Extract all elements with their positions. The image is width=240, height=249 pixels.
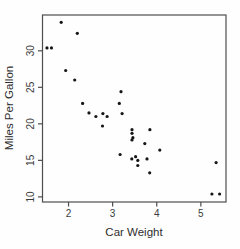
y-tick-label: 15 xyxy=(25,154,36,166)
axes-layer xyxy=(43,15,227,202)
data-point xyxy=(143,142,146,145)
data-point xyxy=(215,161,218,164)
data-point xyxy=(64,69,67,72)
data-point xyxy=(148,171,151,174)
x-axis-label: Car Weight xyxy=(105,226,163,238)
data-point xyxy=(130,128,133,131)
data-point xyxy=(81,102,84,105)
data-point xyxy=(148,128,151,131)
data-point xyxy=(101,112,104,115)
data-point xyxy=(73,78,76,81)
data-point xyxy=(119,153,122,156)
y-axis-label: Miles Per Gallon xyxy=(3,66,15,150)
points-layer xyxy=(45,21,221,196)
data-point xyxy=(118,102,121,105)
data-point xyxy=(130,157,133,160)
data-point xyxy=(145,157,148,160)
data-point xyxy=(106,115,109,118)
plot-border xyxy=(43,15,227,202)
y-tick-label: 10 xyxy=(25,191,36,203)
data-point xyxy=(130,138,133,141)
data-point xyxy=(50,46,53,49)
data-point xyxy=(119,90,122,93)
y-tick-label: 20 xyxy=(25,118,36,130)
data-point xyxy=(218,192,221,195)
x-tick-label: 3 xyxy=(110,208,116,219)
scatter-plot: 23451015202530 Car Weight Miles Per Gall… xyxy=(0,0,240,249)
data-point xyxy=(136,164,139,167)
x-tick-label: 4 xyxy=(154,208,160,219)
x-tick-label: 5 xyxy=(198,208,204,219)
data-point xyxy=(121,112,124,115)
data-point xyxy=(60,21,63,24)
x-tick-label: 2 xyxy=(66,208,72,219)
scatter-plot-figure: 23451015202530 Car Weight Miles Per Gall… xyxy=(0,0,240,249)
data-point xyxy=(210,192,213,195)
data-point xyxy=(101,124,104,127)
ticks-layer: 23451015202530 xyxy=(25,45,205,219)
y-tick-label: 25 xyxy=(25,81,36,93)
y-tick-label: 30 xyxy=(25,45,36,57)
data-point xyxy=(130,132,133,135)
data-point xyxy=(158,149,161,152)
data-point xyxy=(76,32,79,35)
data-point xyxy=(94,115,97,118)
data-point xyxy=(45,46,48,49)
data-point xyxy=(136,159,139,162)
data-point xyxy=(87,111,90,114)
data-point xyxy=(134,155,137,158)
